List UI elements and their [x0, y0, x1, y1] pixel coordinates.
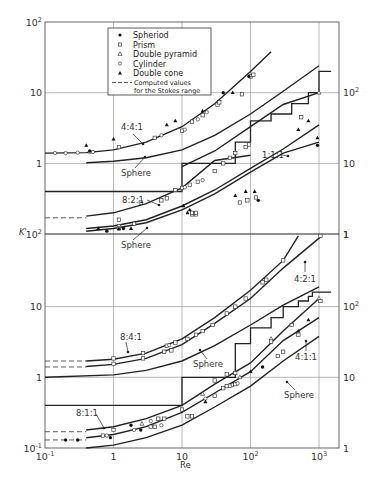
- point-prism: [222, 387, 225, 390]
- annotation-l_841: 8:4:1: [120, 332, 142, 342]
- point-prism: [190, 120, 193, 123]
- point-prism: [234, 151, 237, 154]
- point-prism: [194, 333, 197, 336]
- point-double-cone: [231, 91, 235, 95]
- point-prism: [222, 162, 225, 165]
- legend-label: Computed values: [134, 79, 192, 87]
- point-spheriod: [64, 438, 67, 441]
- point-prism: [186, 415, 189, 418]
- point-prism: [281, 350, 284, 353]
- x-axis-label: Re: [180, 460, 191, 470]
- point-prism: [117, 218, 120, 221]
- point-double-pyramid: [140, 422, 144, 426]
- legend-marker-cylinder: [118, 62, 121, 65]
- point-prism: [188, 183, 191, 186]
- point-cylinder: [132, 428, 135, 431]
- y-tick-label-upper: 1: [36, 158, 42, 169]
- annotation-arrowhead: [286, 381, 289, 384]
- point-prism: [281, 259, 284, 262]
- annotation-l_421: 4:2:1: [294, 274, 316, 284]
- annotation-arrowhead: [158, 204, 161, 207]
- point-prism: [225, 373, 228, 376]
- point-double-cone: [244, 189, 248, 193]
- point-cylinder: [64, 151, 67, 154]
- point-prism: [201, 114, 204, 117]
- point-prism: [244, 297, 247, 300]
- point-cylinder: [201, 178, 204, 181]
- point-double-cone: [112, 137, 116, 141]
- point-prism: [297, 333, 300, 336]
- point-cylinder: [183, 186, 186, 189]
- point-cylinder: [205, 110, 208, 113]
- y-tick-label-upper: 102: [26, 228, 42, 240]
- point-prism: [186, 337, 189, 340]
- point-prism: [234, 305, 237, 308]
- point-prism: [141, 357, 144, 360]
- y2-tick-label-lower: 10: [343, 372, 355, 383]
- point-cylinder: [196, 118, 199, 121]
- point-double-cone: [306, 318, 310, 322]
- point-prism: [276, 354, 279, 357]
- legend-label: Prism: [133, 41, 155, 50]
- point-prism: [218, 101, 221, 104]
- point-prism: [246, 199, 249, 202]
- point-spheriod: [88, 149, 91, 152]
- annotation-arrow: [96, 414, 104, 428]
- point-prism: [174, 341, 177, 344]
- annotation-u_sphere2: Sphere: [121, 240, 151, 250]
- point-spheriod: [109, 436, 112, 439]
- x-tick-label: 103: [311, 450, 327, 462]
- annotation-arrowhead: [146, 227, 149, 230]
- legend: SpheriodPrismDouble pyramidCylinderDoubl…: [108, 28, 211, 95]
- point-spheriod: [261, 365, 264, 368]
- point-prism: [141, 351, 144, 354]
- legend-label: Cylinder: [133, 60, 167, 69]
- curves: [45, 52, 331, 448]
- point-cylinder: [160, 424, 163, 427]
- y2-tick-label-lower: 1: [343, 443, 349, 454]
- legend-marker-spheriod: [118, 33, 121, 36]
- annotation-u_821: 8:2:1: [122, 195, 144, 205]
- point-prism: [228, 156, 231, 159]
- point-prism: [174, 188, 177, 191]
- annotation-l_411: 4:1:1: [295, 352, 317, 362]
- point-prism: [213, 169, 216, 172]
- point-prism: [269, 340, 272, 343]
- point-double-cone: [253, 189, 257, 193]
- series-8:4:1-a: [86, 236, 298, 361]
- point-double-cone: [233, 193, 237, 197]
- annotation-u_111: 1:1:1: [262, 150, 284, 160]
- annotation-u_sphere1: Sphere: [121, 168, 151, 178]
- point-prism: [244, 145, 247, 148]
- annotation-arrowhead: [287, 155, 290, 158]
- x-tick-label: 10-1: [36, 450, 55, 462]
- y2-tick-label-lower: 102: [343, 300, 359, 312]
- point-cylinder: [91, 150, 94, 153]
- point-prism: [153, 425, 156, 428]
- annotation-l_sphere2: Sphere: [284, 390, 314, 400]
- legend-label: for the Stokes range: [134, 87, 200, 95]
- point-cylinder: [76, 151, 79, 154]
- annotation-arrow: [133, 134, 143, 144]
- x-tick-label: 1: [110, 451, 116, 462]
- data-points: [53, 73, 322, 442]
- point-prism: [165, 197, 168, 200]
- point-prism: [163, 417, 166, 420]
- point-cylinder: [167, 343, 170, 346]
- annotation-arrowhead: [304, 261, 307, 264]
- point-prism: [261, 281, 264, 284]
- point-double-cone: [296, 127, 300, 131]
- point-prism: [234, 371, 237, 374]
- point-prism: [190, 415, 193, 418]
- point-spheriod: [222, 91, 225, 94]
- legend-label: Double cone: [133, 69, 183, 78]
- y-tick-label-lower: 10: [30, 301, 42, 312]
- point-prism: [132, 222, 135, 225]
- point-spheriod: [129, 424, 132, 427]
- point-prism: [213, 379, 216, 382]
- point-prism: [112, 428, 115, 431]
- point-prism: [225, 312, 228, 315]
- x-tick-label: 102: [242, 450, 258, 462]
- point-prism: [117, 145, 120, 148]
- legend-label: Double pyramid: [133, 50, 197, 59]
